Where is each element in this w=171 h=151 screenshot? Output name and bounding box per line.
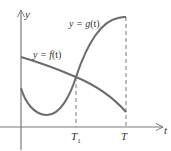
t-axis xyxy=(0,124,163,131)
g-label-prefix: y = xyxy=(68,18,85,29)
t1-marker-label: T1 xyxy=(71,130,81,145)
y-axis-label: y xyxy=(24,8,30,20)
f-curve-label: y = f(t) xyxy=(32,49,61,61)
curve-g xyxy=(21,17,126,115)
diagram-canvas: y t y = g(t) y = f(t) T1 T xyxy=(0,0,171,151)
f-label-arg: (t) xyxy=(52,49,61,61)
y-axis xyxy=(18,10,25,150)
g-label-arg: (t) xyxy=(90,18,99,30)
t-axis-label: t xyxy=(164,124,168,136)
t-marker-label: T xyxy=(121,130,128,142)
g-curve-label: y = g(t) xyxy=(68,18,100,30)
f-label-prefix: y = xyxy=(32,49,49,60)
